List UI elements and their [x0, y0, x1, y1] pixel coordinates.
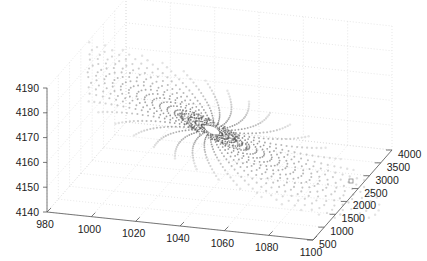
3d-scatter-plot: 414041504160417041804190 980100010201040…	[0, 0, 427, 261]
x-tick-label: 1020	[122, 227, 146, 239]
z-tick-label: 4160	[16, 156, 40, 168]
y-tick-label: 3000	[375, 174, 399, 186]
x-tick-label: 1040	[166, 232, 190, 244]
y-tick-label: 1000	[330, 225, 354, 237]
z-tick-label: 4150	[16, 181, 40, 193]
y-tick-label: 2000	[353, 199, 377, 211]
x-tick-label: 1080	[255, 241, 279, 253]
x-tick-label: 1060	[211, 237, 235, 249]
y-axis-tick-labels: 5001000150020002500300035004000	[319, 148, 422, 250]
y-tick-label: 2500	[364, 187, 388, 199]
data-points	[87, 41, 381, 220]
z-tick-label: 4180	[16, 106, 40, 118]
axes	[43, 88, 392, 240]
grid-lines	[47, 0, 392, 240]
y-tick-label: 4000	[398, 148, 422, 160]
y-tick-label: 500	[319, 238, 337, 250]
z-tick-label: 4190	[16, 82, 40, 94]
x-tick-label: 980	[36, 218, 54, 230]
x-tick-label: 1000	[78, 223, 102, 235]
y-tick-label: 1500	[342, 212, 366, 224]
z-axis-tick-labels: 414041504160417041804190	[16, 82, 40, 218]
x-axis-tick-labels: 980100010201040106010801100	[36, 218, 322, 258]
y-tick-label: 3500	[387, 161, 411, 173]
z-tick-label: 4140	[16, 206, 40, 218]
z-tick-label: 4170	[16, 131, 40, 143]
